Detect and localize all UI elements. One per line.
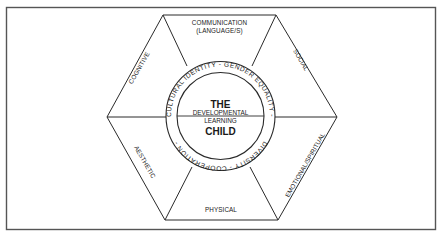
- segment-aesthetic: AESTHETIC: [133, 144, 157, 179]
- segment-cognitive: COGNITIVE: [127, 51, 151, 85]
- center-title-child: CHILD: [205, 126, 236, 137]
- segment-communication-sub: (LANGUAGE/S): [196, 27, 242, 35]
- development-diagram: CULTURAL IDENTITY - GENDER EQUALITY - DI…: [0, 0, 442, 232]
- segment-social: SOCIAL: [292, 48, 310, 72]
- center-title-developmental: DEVELOPMENTAL: [193, 109, 249, 116]
- segment-communication: COMMUNICATION: [192, 19, 248, 26]
- segment-physical: PHYSICAL: [205, 206, 237, 213]
- segment-emotional-spiritual: EMOTIONAL/SPIRITUAL: [283, 131, 326, 198]
- center-title-learning: LEARNING: [204, 117, 237, 124]
